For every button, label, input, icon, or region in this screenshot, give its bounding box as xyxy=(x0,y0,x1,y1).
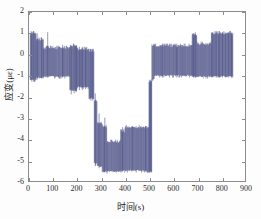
x-tick xyxy=(126,178,127,181)
y-tick-right xyxy=(242,98,245,99)
x-tick xyxy=(174,178,175,181)
y-tick-right xyxy=(242,76,245,77)
y-tick xyxy=(29,55,32,56)
x-tick-top xyxy=(174,12,175,15)
x-tick xyxy=(150,178,151,181)
x-tick-top xyxy=(150,12,151,15)
x-tick xyxy=(53,178,54,181)
x-tick xyxy=(223,178,224,181)
y-tick-label: -4 xyxy=(8,135,24,143)
x-tick-top xyxy=(53,12,54,15)
plot-area xyxy=(28,11,246,182)
x-tick-label: 100 xyxy=(39,184,65,194)
y-tick xyxy=(29,12,32,13)
x-tick-label: 700 xyxy=(185,184,211,194)
x-tick xyxy=(199,178,200,181)
x-tick-label: 600 xyxy=(160,184,186,194)
x-tick-top xyxy=(199,12,200,15)
x-tick-top xyxy=(223,12,224,15)
y-tick-right xyxy=(242,33,245,34)
x-tick-label: 800 xyxy=(209,184,235,194)
x-axis-title: 时间(s) xyxy=(0,200,261,213)
y-tick-right xyxy=(242,140,245,141)
series-strain xyxy=(30,31,233,174)
y-tick-right xyxy=(242,12,245,13)
x-tick xyxy=(102,178,103,181)
y-tick xyxy=(29,140,32,141)
y-tick-right xyxy=(242,55,245,56)
x-tick xyxy=(29,178,30,181)
y-tick-right xyxy=(242,119,245,120)
x-tick-label: 400 xyxy=(112,184,138,194)
y-tick xyxy=(29,162,32,163)
y-tick-label: 1 xyxy=(8,28,24,36)
x-tick-label: 500 xyxy=(136,184,162,194)
x-tick-top xyxy=(126,12,127,15)
x-tick-label: 300 xyxy=(88,184,114,194)
figure-container: 0100200300400500600700800900 210-1-2-3-4… xyxy=(0,0,261,219)
y-axis-title: 应变(με) xyxy=(2,49,15,121)
x-tick-top xyxy=(77,12,78,15)
x-tick xyxy=(77,178,78,181)
x-tick-label: 200 xyxy=(63,184,89,194)
y-tick-label: 2 xyxy=(8,7,24,15)
x-tick-label: 900 xyxy=(233,184,259,194)
y-tick xyxy=(29,76,32,77)
y-tick xyxy=(29,33,32,34)
x-tick-top xyxy=(102,12,103,15)
y-tick xyxy=(29,98,32,99)
y-tick-label: -5 xyxy=(8,157,24,165)
y-tick-right xyxy=(242,162,245,163)
y-tick-label: -6 xyxy=(8,178,24,186)
strain-series-plot xyxy=(29,12,245,181)
y-tick xyxy=(29,119,32,120)
